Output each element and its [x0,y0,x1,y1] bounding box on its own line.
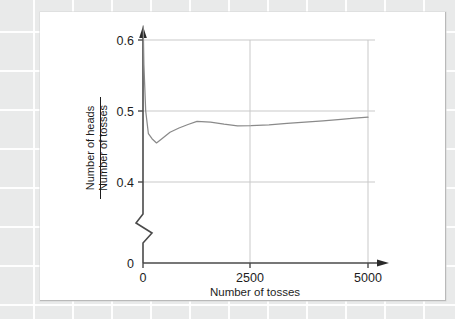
y-tick-label-0-6: 0.6 [117,34,134,48]
x-tick-label-2500: 2500 [236,271,264,285]
x-tick-label-0: 0 [140,271,147,285]
x-axis-arrowhead [377,259,389,266]
data-series-line [143,26,368,143]
y-axis-title-denominator: Number of tosses [97,104,109,191]
chart-svg: 0.6 0.5 0.4 0 0 2500 5000 Number of toss… [0,0,455,319]
y-axis-title-numerator: Number of heads [84,105,96,190]
y-tick-label-0-4: 0.4 [117,176,134,190]
y-tick-label-origin: 0 [127,257,134,271]
y-axis-title-group: Number of heads Number of tosses [84,97,109,199]
grid-lines [143,40,375,263]
x-tick-label-5000: 5000 [354,271,382,285]
x-axis [143,259,389,268]
y-tick-label-0-5: 0.5 [117,105,134,119]
x-axis-title: Number of tosses [210,286,300,298]
